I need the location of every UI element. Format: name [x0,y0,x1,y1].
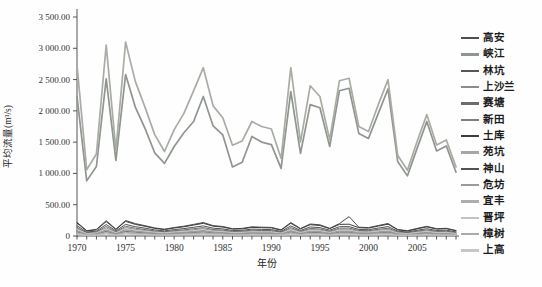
legend-label: 林坑 [483,66,504,77]
legend-item: 林坑 [461,63,515,79]
legend-label: 新田 [483,115,504,126]
legend-label: 上沙兰 [483,82,515,93]
legend-line-swatch [461,135,479,137]
x-tick-label: 2005 [408,243,427,253]
x-tick-label: 1970 [68,243,87,253]
legend-item: 晋坪 [461,210,515,226]
legend-item: 新田 [461,112,515,128]
legend-item: 宜丰 [461,193,515,209]
legend-line-swatch [461,184,479,186]
legend-label: 土库 [483,131,504,142]
x-tick-label: 1995 [310,243,329,253]
legend-label: 樟树 [483,229,504,240]
legend-line-swatch [461,249,479,251]
y-axis-title: 平均流量(m³/s) [2,105,14,168]
legend-line-swatch [461,37,479,39]
legend: 高安 峡江 林坑 上沙兰 赛塘 新田 土库 苑坑 神山 危坊 宜丰 晋坪 樟树 … [461,30,515,259]
x-axis-title: 年份 [257,257,277,269]
y-tick-label: 0 [66,231,71,241]
x-tick-label: 1980 [165,243,184,253]
legend-item: 高安 [461,30,515,46]
legend-line-swatch [461,168,479,170]
legend-label: 苑坑 [483,147,504,158]
legend-label: 赛塘 [483,98,504,109]
legend-line-swatch [461,200,479,202]
legend-line-swatch [461,151,479,153]
average-flow-line-chart: 0500.001 000.001 500.002 000.002 500.003… [0,0,542,287]
legend-label: 危坊 [483,180,504,191]
legend-label: 晋坪 [483,213,504,224]
legend-line-swatch [461,86,479,88]
y-tick-label: 1 500.00 [39,137,71,147]
y-tick-label: 3 500.00 [39,12,71,22]
legend-label: 宜丰 [483,196,504,207]
y-tick-label: 2 500.00 [39,75,71,85]
x-tick-label: 1975 [116,243,135,253]
y-tick-label: 1 000.00 [39,168,71,178]
legend-item: 上高 [461,242,515,258]
legend-line-swatch [461,102,479,104]
legend-item: 樟树 [461,226,515,242]
legend-label: 高安 [483,33,504,44]
legend-item: 峡江 [461,46,515,62]
legend-item: 赛塘 [461,95,515,111]
legend-line-swatch [461,70,479,72]
legend-label: 上高 [483,245,504,256]
y-tick-label: 500.00 [45,200,70,210]
legend-item: 危坊 [461,177,515,193]
legend-label: 神山 [483,164,504,175]
legend-line-swatch [461,233,479,235]
x-tick-label: 1985 [213,243,232,253]
legend-line-swatch [461,217,479,219]
legend-line-swatch [461,119,479,121]
series-line-12 [77,42,456,170]
legend-line-swatch [461,53,479,55]
x-tick-label: 2000 [359,243,378,253]
legend-item: 土库 [461,128,515,144]
x-tick-label: 1990 [262,243,281,253]
y-tick-label: 3 000.00 [39,43,71,53]
y-tick-label: 2 000.00 [39,106,71,116]
legend-item: 苑坑 [461,144,515,160]
legend-item: 神山 [461,161,515,177]
legend-label: 峡江 [483,49,504,60]
legend-item: 上沙兰 [461,79,515,95]
